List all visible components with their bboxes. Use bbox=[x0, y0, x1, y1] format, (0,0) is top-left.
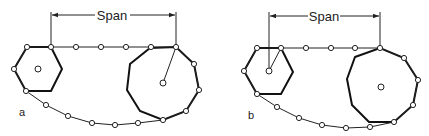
span-label-a: Span bbox=[97, 8, 127, 23]
span-label-b: Span bbox=[309, 9, 339, 24]
panel-label-b: b bbox=[248, 109, 254, 121]
chain-span-diagram: Span a Span bbox=[0, 0, 429, 136]
panel-a: Span a bbox=[11, 8, 201, 128]
small-sprocket-center-a bbox=[35, 66, 41, 72]
large-sprocket-center-a bbox=[160, 80, 166, 86]
chain-pins-b bbox=[241, 45, 420, 130]
small-sprocket-center-b bbox=[266, 68, 272, 74]
large-sprocket-center-b bbox=[378, 84, 384, 90]
radius-line-a bbox=[163, 47, 176, 83]
chain-b bbox=[244, 48, 418, 128]
panel-b: Span b bbox=[241, 9, 420, 131]
radius-line-b bbox=[269, 48, 281, 71]
panel-label-a: a bbox=[19, 106, 26, 118]
